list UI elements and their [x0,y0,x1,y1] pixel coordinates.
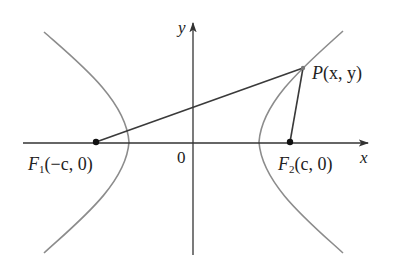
hyperbola-diagram: y x 0 F1(−c, 0) F2(c, 0) P(x, y) [0,0,393,275]
point-p [301,66,305,70]
focus-f2-coords: (c, 0) [295,154,333,175]
focus-f1-coords: (−c, 0) [45,154,93,175]
focus-f1-point [93,139,99,145]
focus-f1-label: F1(−c, 0) [27,154,93,175]
point-p-name: P [311,63,323,83]
origin-label: 0 [177,148,186,167]
focus-f2-label: F2(c, 0) [277,154,332,175]
point-p-coords: (x, y) [323,63,362,84]
point-p-label: P(x, y) [311,63,362,84]
y-axis-label: y [176,18,186,37]
x-axis-label: x [359,148,368,167]
focus-f2-point [287,139,293,145]
